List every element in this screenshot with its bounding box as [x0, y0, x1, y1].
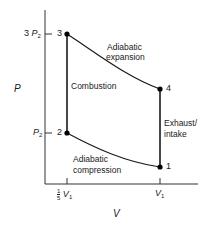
- line1: Adiabatic: [106, 42, 145, 52]
- adiabatic-expansion-label: Adiabatic expansion: [106, 42, 145, 62]
- line2: intake: [164, 129, 197, 140]
- point-1-label: 1: [166, 162, 171, 171]
- y-axis-label: P: [14, 84, 21, 94]
- line2: expansion: [106, 52, 145, 62]
- point-4-marker: [157, 86, 162, 91]
- x-tick-label-v1-fifth: 15 V1: [57, 188, 72, 201]
- y-tick-label-p2: P2: [33, 128, 42, 138]
- subscript: 2: [38, 33, 41, 39]
- x-axis-label: V: [113, 209, 120, 219]
- x-tick-label-v1: V1: [155, 189, 164, 199]
- subscript: 1: [69, 194, 72, 200]
- point-4-label: 4: [166, 84, 171, 93]
- fraction: 15: [57, 188, 60, 201]
- numerator: 1: [57, 188, 60, 195]
- y-tick-label-3p2: 3 P2: [24, 29, 41, 39]
- adiabatic-compression-label: Adiabatic compression: [73, 154, 121, 176]
- line1: Adiabatic: [73, 154, 121, 165]
- exhaust-intake-label: Exhaust/ intake: [164, 118, 197, 140]
- point-1-marker: [157, 164, 162, 169]
- point-2-label: 2: [57, 128, 62, 137]
- subscript: 1: [161, 193, 164, 199]
- coef: 3: [24, 28, 29, 38]
- point-3-label: 3: [57, 29, 62, 38]
- combustion-label: Combustion: [71, 82, 116, 91]
- line1: Exhaust/: [164, 118, 197, 129]
- point-2-marker: [64, 130, 69, 135]
- point-3-marker: [64, 31, 69, 36]
- subscript: 2: [39, 132, 42, 138]
- line2: compression: [73, 165, 121, 176]
- denominator: 5: [57, 195, 60, 201]
